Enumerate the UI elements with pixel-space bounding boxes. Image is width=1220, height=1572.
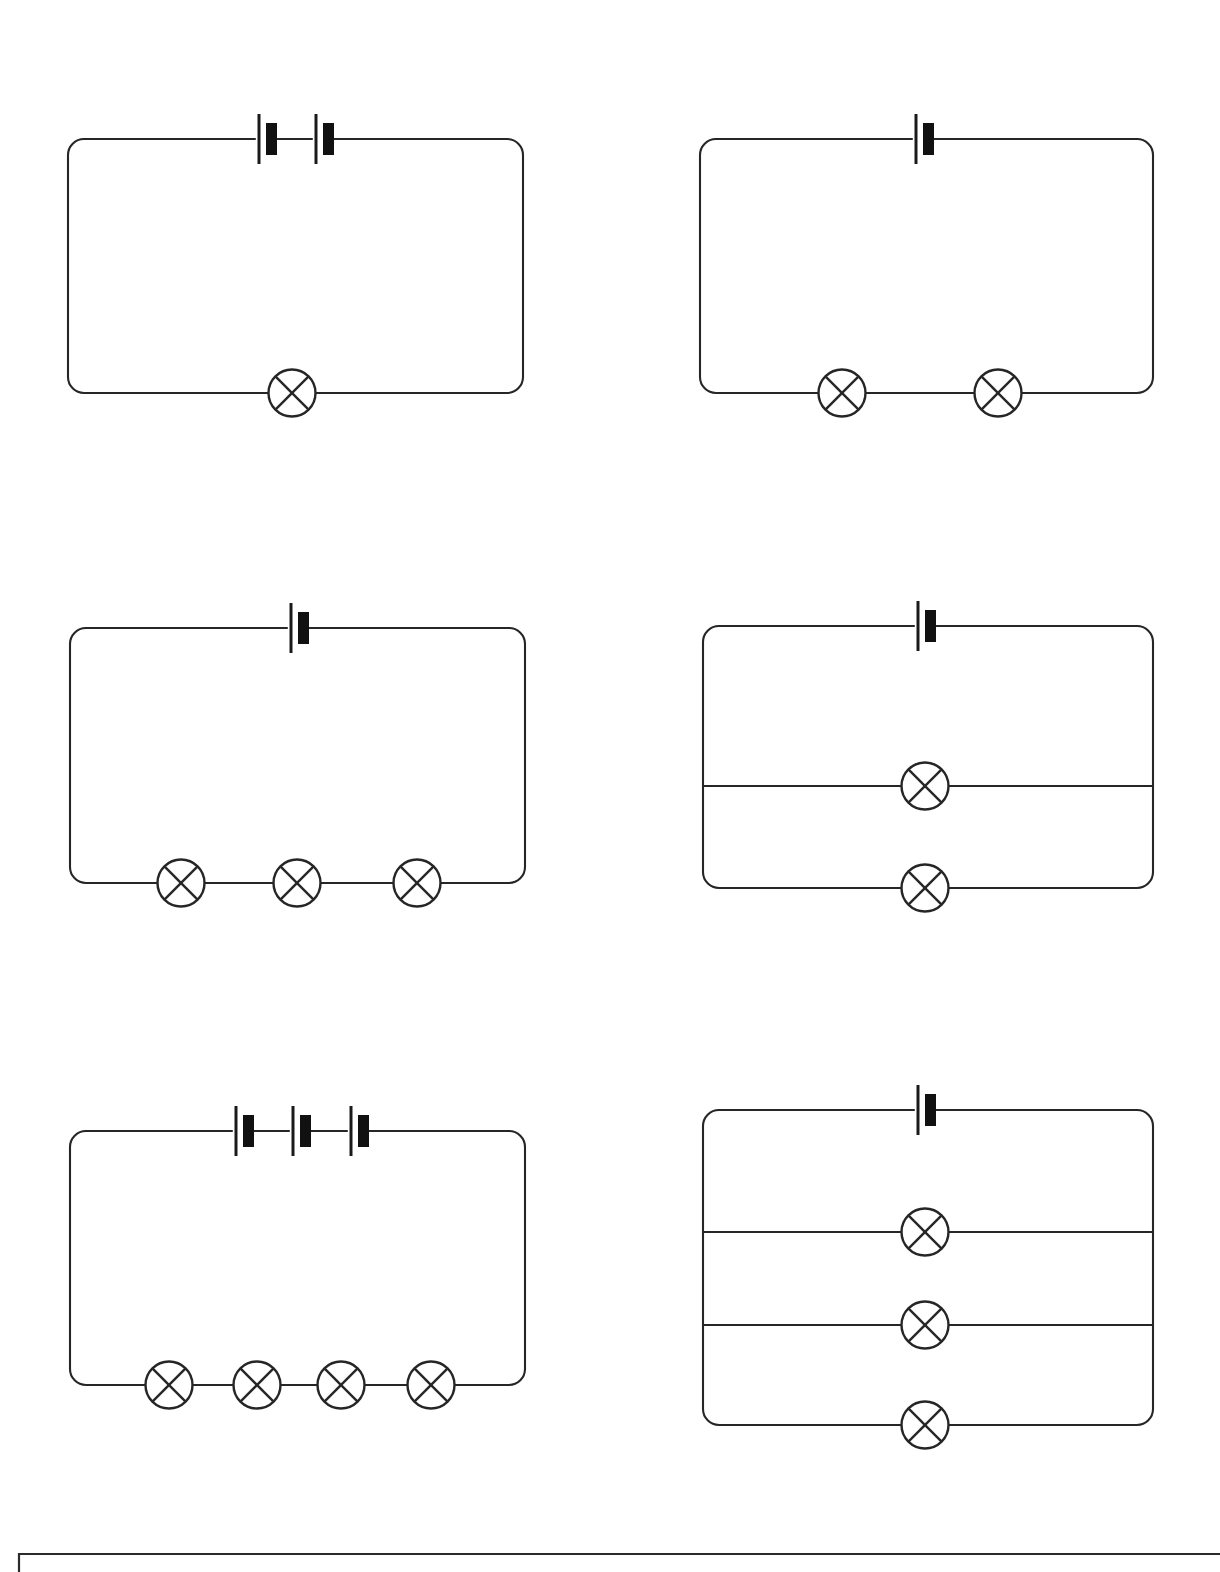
wire-left <box>70 1131 146 1385</box>
wire-left <box>703 626 902 888</box>
circuit-3 <box>70 603 525 907</box>
circuit-5-lamp-4 <box>408 1362 455 1409</box>
wire-right <box>316 139 523 393</box>
circuit-5-frame <box>70 1131 525 1385</box>
circuit-5-lamp-2 <box>234 1362 281 1409</box>
worksheet-page <box>0 0 1220 1572</box>
wire-right <box>949 626 1154 888</box>
circuit-3-frame <box>70 628 525 883</box>
circuit-diagram-canvas <box>0 0 1220 1572</box>
circuit-1-lamp-1 <box>269 370 316 417</box>
circuit-1-frame <box>68 139 523 393</box>
circuit-5-cell-1 <box>236 1106 254 1156</box>
circuit-3-cell-1 <box>291 603 309 653</box>
circuit-4-cell-1 <box>918 601 936 651</box>
circuit-6-cell-1 <box>918 1085 936 1135</box>
circuit-6 <box>703 1085 1153 1449</box>
wire-right <box>1022 139 1154 393</box>
circuit-6-lamp-3 <box>902 1402 949 1449</box>
wire-right <box>441 628 526 883</box>
wire-left <box>68 139 268 393</box>
wire-left <box>70 628 158 883</box>
circuit-3-lamp-2 <box>274 860 321 907</box>
circuit-1-cell-1 <box>259 114 277 164</box>
circuit-2-cell-1 <box>916 114 934 164</box>
circuit-6-frame <box>703 1110 1153 1425</box>
circuit-4 <box>703 601 1153 912</box>
circuit-1 <box>68 114 523 417</box>
circuit-5-lamp-3 <box>318 1362 365 1409</box>
circuit-2-lamp-2 <box>975 370 1022 417</box>
circuit-5 <box>70 1106 525 1409</box>
circuit-5-lamp-1 <box>146 1362 193 1409</box>
wire-right <box>455 1131 526 1385</box>
wire-right <box>949 1110 1154 1425</box>
circuit-6-lamp-1 <box>902 1209 949 1256</box>
circuit-2-lamp-1 <box>819 370 866 417</box>
circuit-3-lamp-3 <box>394 860 441 907</box>
answer-box[interactable] <box>19 1554 1220 1572</box>
circuit-4-frame <box>703 626 1153 888</box>
circuit-3-lamp-1 <box>158 860 205 907</box>
wire-left <box>700 139 819 393</box>
circuit-4-lamp-2 <box>902 865 949 912</box>
circuit-5-cell-2 <box>293 1106 311 1156</box>
circuit-6-lamp-2 <box>902 1302 949 1349</box>
circuit-5-cell-3 <box>351 1106 369 1156</box>
answer-box-border <box>19 1554 1220 1572</box>
wire-left <box>703 1110 902 1425</box>
circuit-4-lamp-1 <box>902 763 949 810</box>
circuit-2-frame <box>700 139 1153 393</box>
circuit-2 <box>700 114 1153 417</box>
circuit-1-cell-2 <box>316 114 334 164</box>
